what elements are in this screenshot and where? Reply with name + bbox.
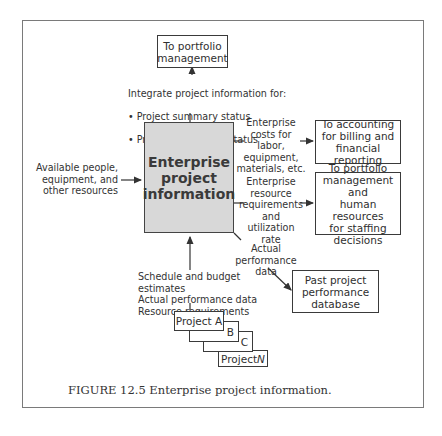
enterprise-project-information-box: Enterprise project information xyxy=(144,122,234,233)
integrate-heading: Integrate project information for: xyxy=(128,88,288,100)
to-portfolio-hr-box: To portfolio management and human resour… xyxy=(315,172,401,235)
to-portfolio-management-box: To portfolio management xyxy=(157,35,228,68)
available-resources-label: Available people, equipment, and other r… xyxy=(30,162,118,197)
project-n-prefix: Project xyxy=(221,353,257,365)
project-n-letter: N xyxy=(257,353,265,365)
to-accounting-box: To accounting for billing and financial … xyxy=(315,120,401,164)
project-a-label: Project A xyxy=(176,315,222,327)
enterprise-resource-label: Enterprise resource requirements and uti… xyxy=(238,176,304,245)
project-n-card: Project N xyxy=(218,350,268,367)
project-c-label: C xyxy=(241,336,248,348)
enterprise-costs-label: Enterprise costs for labor, equipment, m… xyxy=(236,117,306,175)
project-b-label: B xyxy=(227,326,234,338)
project-a-card: Project A xyxy=(174,311,224,331)
figure-caption: FIGURE 12.5 Enterprise project informati… xyxy=(68,383,332,397)
past-project-database-box: Past project performance database xyxy=(292,270,379,313)
